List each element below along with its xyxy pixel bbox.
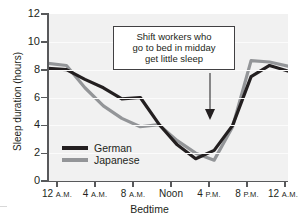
legend-item-japanese: Japanese: [62, 154, 140, 166]
legend-label-japanese: Japanese: [94, 155, 140, 165]
legend-swatch-german: [62, 146, 88, 149]
callout-line-3: get little sleep: [117, 53, 231, 64]
x-label-main: 4: [83, 188, 89, 199]
legend: German Japanese: [62, 142, 140, 166]
x-tick-8am: [132, 182, 134, 187]
x-label-8am: 8 A.M.: [121, 188, 146, 199]
callout-arrow-icon: [203, 73, 217, 121]
page-crop-mark: [0, 206, 7, 207]
x-tick-noon: [170, 182, 172, 187]
x-label-suffix: A.M.: [129, 190, 145, 199]
x-label-main: 12: [42, 188, 53, 199]
x-label-suffix: A.M.: [56, 190, 72, 199]
x-label-main: 12: [268, 188, 279, 199]
legend-item-german: German: [62, 142, 140, 154]
callout-line-1: Shift workers who: [117, 31, 231, 42]
x-label-main: 8: [235, 188, 241, 199]
x-tick-12am-start: [56, 182, 58, 187]
x-label-suffix: P.M.: [244, 190, 259, 199]
legend-label-german: German: [94, 143, 132, 153]
x-label-suffix: A.M.: [91, 190, 107, 199]
y-label-12: 12: [18, 7, 40, 19]
annotation-callout: Shift workers who go to bed in midday ge…: [113, 26, 235, 70]
figure-sleep-duration-vs-bedtime: 12 10 8 6 4 2 0 Sleep duration (hours) 1…: [0, 0, 299, 224]
y-axis-title: Sleep duration (hours): [12, 27, 23, 177]
x-label-12am-end: 12 A.M.: [268, 188, 298, 199]
x-tick-4am: [94, 182, 96, 187]
x-tick-4pm: [208, 182, 210, 187]
x-label-4am: 4 A.M.: [83, 188, 108, 199]
x-label-main: 8: [121, 188, 127, 199]
x-label-noon: Noon: [159, 188, 183, 199]
x-label-main: Noon: [159, 188, 183, 199]
x-label-suffix: P.M.: [206, 190, 221, 199]
x-label-4pm: 4 P.M.: [197, 188, 221, 199]
x-axis-title: Bedtime: [0, 203, 299, 215]
x-label-main: 4: [197, 188, 203, 199]
legend-swatch-japanese: [62, 158, 88, 161]
x-tick-12am-end: [284, 182, 286, 187]
callout-line-2: go to bed in midday: [117, 42, 231, 53]
x-label-8pm: 8 P.M.: [235, 188, 259, 199]
x-label-12am-start: 12 A.M.: [42, 188, 72, 199]
x-tick-8pm: [246, 182, 248, 187]
x-label-suffix: A.M.: [282, 190, 298, 199]
figure-caption: [34, 216, 294, 224]
